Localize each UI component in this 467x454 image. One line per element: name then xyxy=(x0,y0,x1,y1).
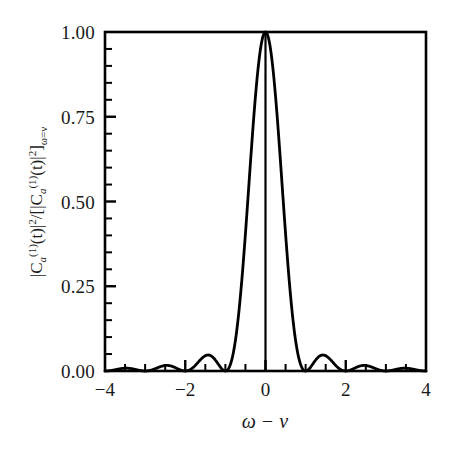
ylabel-den-sup: (1) xyxy=(26,175,39,188)
x-axis-title: ω − ν xyxy=(242,410,289,432)
x-tick-label: 2 xyxy=(341,379,351,400)
chart-background xyxy=(0,0,467,454)
ylabel-den-t: (t)| xyxy=(27,156,46,175)
x-tick-label: −2 xyxy=(175,379,196,400)
x-tick-label: 0 xyxy=(261,379,271,400)
y-tick-label: 0.25 xyxy=(61,276,95,297)
ylabel-num-open: |C xyxy=(27,263,46,278)
x-tick-label: 4 xyxy=(421,379,431,400)
y-tick-label: 0.00 xyxy=(61,361,95,382)
ylabel-num-sup: (1) xyxy=(26,244,39,257)
figure-container: −4−2024 0.000.250.500.751.00 ω − ν |Ca(1… xyxy=(0,0,467,454)
y-tick-label: 0.50 xyxy=(61,192,95,213)
ylabel-condition: ω=ν xyxy=(37,127,49,145)
y-tick-label: 1.00 xyxy=(61,22,95,43)
x-tick-label: −4 xyxy=(95,379,116,400)
y-tick-label: 0.75 xyxy=(61,107,95,128)
ylabel-slash: /[|C xyxy=(27,194,46,219)
chart-svg: −4−2024 0.000.250.500.751.00 ω − ν |Ca(1… xyxy=(0,0,467,454)
ylabel-num-t: (t)| xyxy=(27,225,46,244)
